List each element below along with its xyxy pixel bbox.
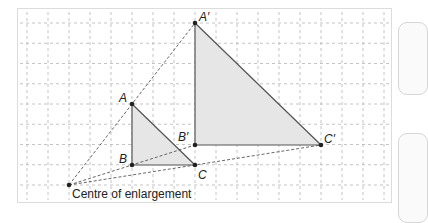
- point-c: [193, 163, 198, 168]
- point-b: [130, 163, 135, 168]
- caption-centre-of-enlargement: Centre of enlargement: [72, 187, 192, 201]
- point-a: [130, 102, 135, 107]
- point-centre: [67, 183, 72, 188]
- label-a-prime: A′: [198, 10, 210, 24]
- label-c-prime: C′: [324, 132, 336, 146]
- label-c: C: [198, 168, 207, 182]
- point-b-prime: [193, 143, 198, 148]
- point-c-prime: [319, 143, 324, 148]
- point-a-prime: [193, 21, 198, 26]
- side-card: [398, 22, 428, 95]
- label-a: A: [118, 91, 127, 105]
- side-card: [398, 133, 428, 223]
- label-b-prime: B′: [178, 130, 189, 144]
- label-b: B: [119, 152, 127, 166]
